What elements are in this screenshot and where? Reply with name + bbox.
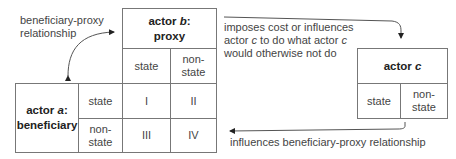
actor-b-header: actor b: proxy: [122, 8, 217, 49]
actor-c-header: actor c: [357, 48, 448, 84]
row-label: non-state: [89, 123, 113, 149]
actor-a-title: actor: [26, 104, 57, 116]
actor-c-title: actor: [384, 60, 415, 72]
actor-a-colon: :: [64, 104, 68, 116]
label-line: beneficiary-proxy: [20, 14, 104, 27]
actor-b-title: actor: [148, 15, 179, 27]
actor-a-header: actor a: beneficiary: [15, 83, 79, 153]
col-label: state: [135, 60, 159, 73]
matrix-cell-I: I: [122, 83, 171, 119]
col-label: non-state: [182, 53, 206, 79]
actor-a-nonstate: non-state: [78, 118, 123, 153]
actor-b-role: proxy: [154, 30, 185, 42]
actor-b-nonstate: non-state: [170, 48, 217, 84]
beneficiary-proxy-label: beneficiary-proxy relationship: [20, 14, 104, 40]
row-label: state: [89, 95, 113, 108]
label-line: imposes cost or influences: [224, 21, 354, 34]
label-line: relationship: [20, 27, 104, 40]
cell-value: II: [190, 95, 196, 108]
influences-arrow: [230, 122, 405, 131]
col-label: state: [367, 95, 391, 108]
cell-value: IV: [188, 129, 198, 142]
cell-value: III: [142, 129, 151, 142]
actor-b-state: state: [122, 48, 171, 84]
label-line: actor c to do what actor c: [224, 34, 354, 47]
actor-a-state: state: [78, 83, 123, 119]
imposes-label: imposes cost or influences actor c to do…: [224, 21, 354, 60]
actor-c-nonstate: non-state: [400, 83, 448, 119]
actor-a-role: beneficiary: [17, 119, 78, 131]
cell-value: I: [145, 95, 148, 108]
influences-label: influences beneficiary-proxy relationshi…: [230, 136, 426, 149]
matrix-cell-III: III: [122, 118, 171, 153]
label-line: would otherwise not do: [224, 47, 354, 60]
actor-b-colon: :: [187, 15, 191, 27]
matrix-cell-II: II: [170, 83, 217, 119]
actor-c-var: c: [415, 60, 421, 72]
actor-b-var: b: [180, 15, 187, 27]
matrix-cell-IV: IV: [170, 118, 217, 153]
actor-c-state: state: [357, 83, 401, 119]
col-label: non-state: [412, 88, 436, 114]
